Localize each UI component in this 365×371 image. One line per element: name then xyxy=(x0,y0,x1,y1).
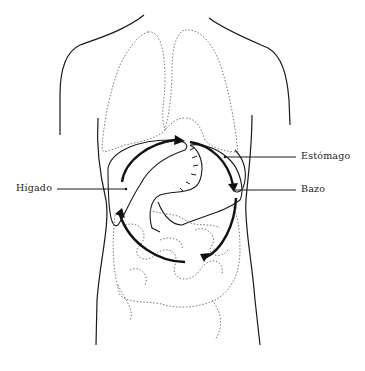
left-torso-side xyxy=(96,118,107,345)
stomach-label: Estómago xyxy=(301,150,350,161)
right-shoulder-outline xyxy=(209,18,290,125)
left-shoulder-outline xyxy=(60,15,144,135)
right-lung-dotted xyxy=(102,32,165,152)
left-lung-dotted xyxy=(165,30,238,152)
stomach-rugae xyxy=(180,148,198,191)
anatomy-diagram: Hígado Estómago Bazo xyxy=(0,0,365,371)
intestines-dotted xyxy=(113,205,240,340)
liver-label: Hígado xyxy=(16,182,52,193)
stomach-outline xyxy=(150,145,242,232)
arrowheads xyxy=(115,135,238,262)
spleen-label: Bazo xyxy=(301,183,325,194)
right-torso-side xyxy=(246,115,260,345)
circulation-arrows xyxy=(120,140,236,262)
